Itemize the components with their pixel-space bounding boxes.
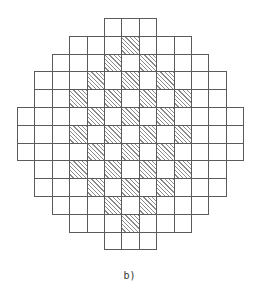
- grid-cell: [208, 178, 227, 197]
- grid-cell: [69, 178, 88, 197]
- grid-cell: [34, 107, 53, 126]
- grid-cell: [104, 178, 122, 197]
- grid-cell: [191, 125, 209, 144]
- grid-cell: [121, 160, 140, 179]
- grid-cell: [52, 107, 70, 126]
- grid-cell: [121, 18, 140, 37]
- grid-cell: [104, 36, 122, 55]
- grid-cell-shaded: [174, 160, 192, 179]
- grid-cell: [174, 107, 192, 126]
- grid-cell: [139, 36, 157, 55]
- grid-cell: [69, 71, 88, 90]
- grid-cell: [191, 89, 209, 108]
- grid-cell: [121, 196, 140, 215]
- grid-cell: [87, 196, 105, 215]
- grid-cell-shaded: [104, 160, 122, 179]
- grid-cell: [191, 54, 209, 72]
- grid-cell-shaded: [174, 89, 192, 108]
- circular-cell-grid: [0, 0, 259, 260]
- grid-cell-shaded: [87, 178, 105, 197]
- grid-cell: [191, 71, 209, 90]
- figure-caption: b): [0, 270, 259, 281]
- grid-cell: [174, 196, 192, 215]
- grid-cell-shaded: [174, 125, 192, 144]
- grid-cell: [87, 36, 105, 55]
- grid-cell: [69, 196, 88, 215]
- grid-cell: [121, 89, 140, 108]
- grid-cell: [208, 107, 227, 126]
- grid-cell: [139, 232, 157, 250]
- grid-cell-shaded: [121, 71, 140, 90]
- grid-cell: [87, 89, 105, 108]
- grid-cell: [139, 71, 157, 90]
- grid-cell: [208, 89, 227, 108]
- grid-cell: [121, 232, 140, 250]
- grid-cell-shaded: [139, 89, 157, 108]
- grid-cell-shaded: [104, 196, 122, 215]
- grid-cell: [69, 214, 88, 233]
- grid-cell: [121, 125, 140, 144]
- grid-cell-shaded: [139, 54, 157, 72]
- grid-cell: [52, 160, 70, 179]
- grid-cell: [17, 143, 35, 161]
- grid-cell-shaded: [121, 214, 140, 233]
- grid-cell: [156, 214, 175, 233]
- grid-cell: [139, 107, 157, 126]
- grid-cell: [226, 125, 244, 144]
- grid-cell-shaded: [121, 143, 140, 161]
- grid-cell: [34, 89, 53, 108]
- grid-cell-shaded: [121, 178, 140, 197]
- grid-cell: [34, 71, 53, 90]
- grid-cell: [208, 160, 227, 179]
- grid-cell-shaded: [139, 196, 157, 215]
- grid-cell: [52, 196, 70, 215]
- grid-cell: [69, 54, 88, 72]
- grid-cell: [104, 71, 122, 90]
- grid-cell: [104, 232, 122, 250]
- grid-cell: [156, 125, 175, 144]
- grid-cell: [104, 214, 122, 233]
- grid-cell: [191, 196, 209, 215]
- grid-cell: [156, 160, 175, 179]
- grid-cell: [174, 143, 192, 161]
- grid-cell-shaded: [104, 89, 122, 108]
- grid-cell: [226, 107, 244, 126]
- grid-cell: [17, 107, 35, 126]
- grid-cell: [208, 71, 227, 90]
- grid-cell-shaded: [104, 125, 122, 144]
- grid-cell-shaded: [69, 125, 88, 144]
- grid-cell-shaded: [87, 107, 105, 126]
- grid-cell: [52, 71, 70, 90]
- grid-cell: [34, 178, 53, 197]
- grid-cell-shaded: [69, 160, 88, 179]
- grid-cell-shaded: [69, 89, 88, 108]
- grid-cell: [139, 178, 157, 197]
- grid-cell-shaded: [139, 160, 157, 179]
- grid-cell: [87, 54, 105, 72]
- grid-cell: [174, 36, 192, 55]
- grid-cell: [191, 178, 209, 197]
- grid-cell-shaded: [87, 71, 105, 90]
- grid-cell: [69, 143, 88, 161]
- grid-cell: [174, 214, 192, 233]
- grid-cell: [34, 143, 53, 161]
- grid-cell: [208, 143, 227, 161]
- grid-cell: [156, 36, 175, 55]
- grid-cell: [191, 143, 209, 161]
- grid-cell: [69, 36, 88, 55]
- grid-cell: [174, 178, 192, 197]
- grid-cell: [52, 125, 70, 144]
- grid-cell: [191, 160, 209, 179]
- grid-cell: [52, 143, 70, 161]
- grid-cell: [174, 54, 192, 72]
- grid-cell: [17, 125, 35, 144]
- grid-cell: [191, 107, 209, 126]
- grid-cell: [226, 143, 244, 161]
- grid-cell-shaded: [121, 107, 140, 126]
- grid-cell-shaded: [104, 54, 122, 72]
- grid-cell-shaded: [139, 125, 157, 144]
- grid-cell: [139, 214, 157, 233]
- grid-cell: [156, 196, 175, 215]
- grid-cell: [139, 143, 157, 161]
- grid-cell: [52, 89, 70, 108]
